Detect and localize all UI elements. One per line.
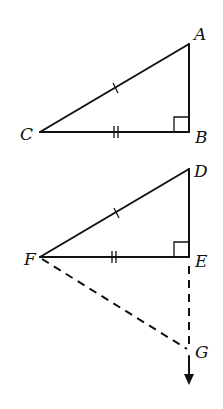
construction [42,259,194,385]
right-angle-mark-b [174,117,189,132]
label-b: B [194,127,208,147]
label-c: C [20,124,33,144]
arrow-down-icon [184,374,194,385]
right-angle-mark-e [174,242,189,257]
side-ca [40,44,189,132]
label-a: A [192,24,206,44]
geometry-diagram: A B C D E F G [0,0,223,409]
label-g: G [195,342,209,362]
triangle-abc [40,44,189,138]
side-fd [40,169,189,257]
dashed-segment-fg [42,259,187,349]
vertex-labels: A B C D E F G [20,24,209,362]
label-f: F [23,249,37,269]
label-e: E [194,251,208,271]
label-d: D [193,161,208,181]
triangle-def [40,169,189,263]
